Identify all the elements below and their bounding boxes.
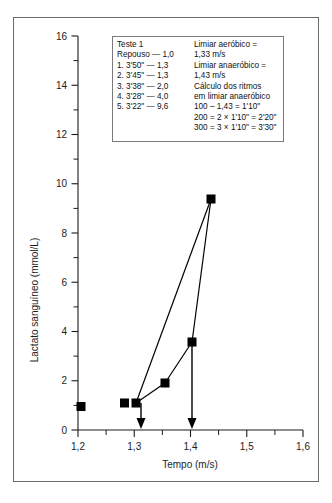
legend-left-line-2: Repouso — 1,0 xyxy=(117,50,192,60)
x-tick-1-5: 1,5 xyxy=(240,441,254,452)
x-tick-1-4: 1,4 xyxy=(184,441,198,452)
data-point-1 xyxy=(120,399,129,408)
y-axis-major-ticks xyxy=(72,36,79,430)
y-tick-2: 2 xyxy=(61,375,67,386)
legend-left-line-4: 2. 3'45" — 1,3 xyxy=(117,71,192,81)
x-tick-1-3: 1,3 xyxy=(127,441,141,452)
y-tick-16: 16 xyxy=(56,31,68,42)
legend-right-line-6: em limiar anaeróbico xyxy=(194,92,283,102)
legend-right-line-3: Limiar anaeróbico = xyxy=(194,61,283,71)
legend-left-line-9 xyxy=(117,123,192,133)
y-tick-8: 8 xyxy=(61,228,67,239)
legend-left-line-6: 4. 3'28" — 4,0 xyxy=(117,92,192,102)
legend-right-line-2: 1,33 m/s xyxy=(194,50,283,60)
x-axis-tick-labels: 1,2 1,3 1,4 1,5 1,6 xyxy=(71,441,310,452)
connector-p2-to-p6 xyxy=(136,199,211,403)
legend-left-line-3: 1. 3'50" — 1,3 xyxy=(117,61,192,71)
y-tick-12: 12 xyxy=(56,129,68,140)
data-point-3 xyxy=(161,379,170,388)
legend-left-line-8 xyxy=(117,113,192,123)
y-axis-title: Lactato sanguíneo (mmol/L) xyxy=(29,238,40,363)
legend-right-line-7: 100 – 1,43 = 1'10" xyxy=(194,102,283,112)
connector-p5-to-p6 xyxy=(192,199,211,342)
series-connector-lines xyxy=(136,199,211,403)
y-tick-4: 4 xyxy=(61,326,67,337)
y-tick-14: 14 xyxy=(56,80,68,91)
legend-right-line-8: 200 = 2 × 1'10" = 2'20" xyxy=(194,113,283,123)
legend-left-line-5: 3. 3'38" — 2,0 xyxy=(117,82,192,92)
x-axis-major-ticks xyxy=(78,430,303,437)
legend-right-line-1: Limiar aeróbico = xyxy=(194,40,283,50)
x-axis-title: Tempo (m/s) xyxy=(162,459,218,470)
data-point-5 xyxy=(207,195,216,204)
legend-right-line-4: 1,43 m/s xyxy=(194,71,283,81)
x-tick-1-2: 1,2 xyxy=(71,441,85,452)
y-tick-6: 6 xyxy=(61,277,67,288)
y-tick-0: 0 xyxy=(61,425,67,436)
legend-right-line-9: 300 = 3 × 1'10" = 3'30" xyxy=(194,123,283,133)
test-results-legend-box: Teste 1 Limiar aeróbico = Repouso — 1,0 … xyxy=(112,36,284,142)
data-point-repouso xyxy=(77,402,86,411)
y-axis-tick-labels: 16 14 12 10 8 6 4 2 0 xyxy=(56,31,68,436)
data-point-markers xyxy=(77,195,216,412)
legend-left-line-1: Teste 1 xyxy=(117,40,192,50)
anaerobic-threshold-arrow xyxy=(188,342,197,429)
y-tick-10: 10 xyxy=(56,178,68,189)
legend-right-line-5: Cálculo dos ritmos xyxy=(194,82,283,92)
legend-left-line-7: 5. 3'22" — 9,6 xyxy=(117,102,192,112)
connector-p4-to-p5 xyxy=(165,342,192,383)
x-tick-1-6: 1,6 xyxy=(296,441,310,452)
data-point-4 xyxy=(188,338,197,347)
data-point-2 xyxy=(132,399,141,408)
